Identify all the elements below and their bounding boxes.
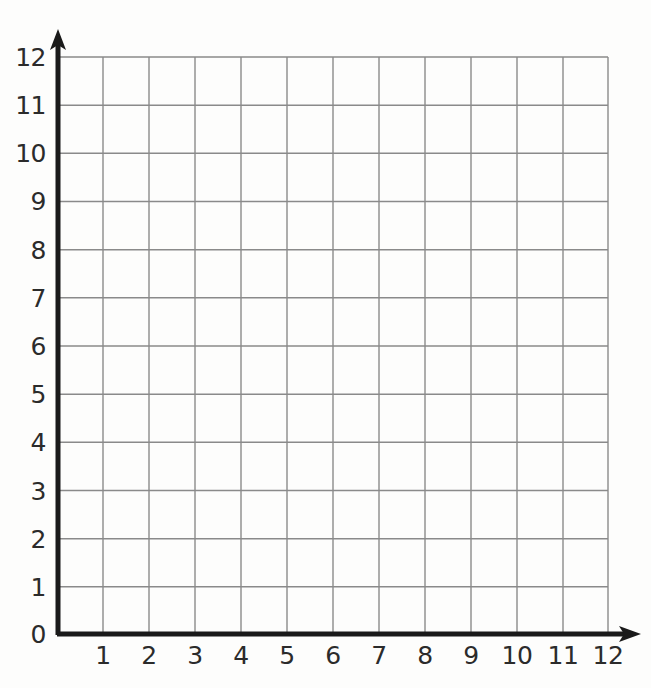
y-tick-label-8: 8	[2, 238, 46, 263]
figure-background	[0, 0, 651, 688]
origin-label: 0	[2, 622, 46, 647]
coordinate-grid-figure	[0, 0, 651, 688]
y-tick-label-1: 1	[2, 575, 46, 600]
x-tick-label-11: 11	[543, 643, 583, 668]
x-tick-label-1: 1	[83, 643, 123, 668]
x-tick-label-7: 7	[359, 643, 399, 668]
y-tick-label-7: 7	[2, 286, 46, 311]
x-tick-label-9: 9	[451, 643, 491, 668]
x-tick-label-5: 5	[267, 643, 307, 668]
x-tick-label-8: 8	[405, 643, 445, 668]
y-tick-label-5: 5	[2, 382, 46, 407]
x-tick-label-6: 6	[313, 643, 353, 668]
y-tick-label-2: 2	[2, 527, 46, 552]
y-tick-label-3: 3	[2, 479, 46, 504]
x-tick-label-2: 2	[129, 643, 169, 668]
worksheet-page: 12 11 10 9 8 7 6 5 4 3 2 1 0 1 2 3 4 5 6…	[0, 0, 651, 688]
x-tick-label-12: 12	[588, 643, 628, 668]
y-tick-label-10: 10	[2, 141, 46, 166]
y-tick-label-11: 11	[2, 93, 46, 118]
x-tick-label-4: 4	[221, 643, 261, 668]
y-tick-label-9: 9	[2, 189, 46, 214]
x-tick-label-3: 3	[175, 643, 215, 668]
y-tick-label-6: 6	[2, 334, 46, 359]
x-tick-label-10: 10	[497, 643, 537, 668]
y-tick-label-4: 4	[2, 430, 46, 455]
y-tick-label-12: 12	[2, 45, 46, 70]
